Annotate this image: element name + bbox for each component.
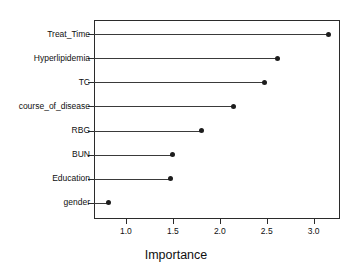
data-row-line — [94, 34, 329, 35]
plot-area — [94, 20, 340, 219]
y-axis-category-label: Education — [52, 174, 90, 183]
x-axis-tick-label: 1.5 — [158, 226, 188, 236]
x-axis-tick — [126, 219, 127, 224]
y-axis-category-label: Treat_Time — [47, 30, 90, 39]
x-axis-tick-label: 3.0 — [299, 226, 329, 236]
data-row-line — [94, 179, 170, 180]
data-point-marker[interactable] — [168, 176, 173, 181]
dot-plot-chart: Treat_TimeHyperlipidemiaTCcourse_of_dise… — [0, 0, 352, 274]
y-axis-category-label: TC — [79, 78, 90, 87]
x-axis-title: Importance — [0, 248, 352, 263]
data-row-line — [94, 155, 173, 156]
x-axis-tick — [314, 219, 315, 224]
data-point-marker[interactable] — [326, 32, 331, 37]
y-axis-category-label: gender — [64, 198, 90, 207]
x-axis-tick — [220, 219, 221, 224]
data-row-line — [94, 131, 201, 132]
x-axis-tick-label: 2.0 — [205, 226, 235, 236]
x-axis-tick — [173, 219, 174, 224]
x-axis-tick-label: 1.0 — [111, 226, 141, 236]
data-point-marker[interactable] — [199, 128, 204, 133]
y-axis-category-label: RBG — [72, 126, 90, 135]
data-row-line — [94, 58, 277, 59]
x-axis-tick-label: 2.5 — [252, 226, 282, 236]
data-point-marker[interactable] — [275, 56, 280, 61]
y-axis-category-label: BUN — [72, 150, 90, 159]
y-axis-category-label: Hyperlipidemia — [34, 54, 90, 63]
data-row-line — [94, 82, 265, 83]
x-axis-tick — [267, 219, 268, 224]
y-axis-category-label: course_of_disease — [19, 102, 90, 111]
data-row-line — [94, 106, 234, 107]
